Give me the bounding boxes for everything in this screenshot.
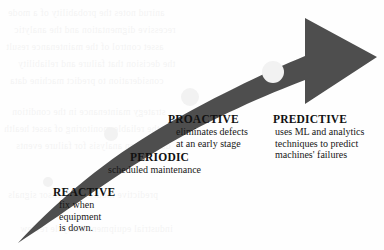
stage-periodic-title: PERIODIC bbox=[108, 151, 201, 164]
stage-reactive-desc-line: is down. bbox=[53, 222, 115, 234]
figure-canvas: anirud notes the probability of a mode r… bbox=[0, 0, 384, 250]
stage-proactive-title: PROACTIVE bbox=[168, 113, 248, 126]
stage-predictive-desc-line: uses ML and analytics bbox=[273, 126, 364, 138]
stage-predictive-desc-line: machines' failures bbox=[273, 149, 364, 161]
stage-reactive-desc-line: equipment bbox=[53, 211, 115, 223]
stage-predictive: PREDICTIVE uses ML and analytics techniq… bbox=[273, 113, 364, 161]
stage-marker-proactive bbox=[181, 88, 199, 106]
stage-reactive-desc-line: fix when bbox=[53, 199, 115, 211]
stage-proactive-desc-line: eliminates defects bbox=[168, 126, 248, 138]
stage-marker-periodic bbox=[104, 127, 118, 141]
stage-reactive-title: REACTIVE bbox=[53, 186, 115, 199]
stage-proactive-desc-line: at an early stage bbox=[168, 138, 248, 150]
stage-periodic: PERIODIC scheduled maintenance bbox=[108, 151, 201, 176]
stage-marker-reactive bbox=[43, 177, 53, 187]
stage-proactive: PROACTIVE eliminates defects at an early… bbox=[168, 113, 248, 149]
stage-predictive-desc-line: techniques to predict bbox=[273, 138, 364, 150]
stage-periodic-desc-line: scheduled maintenance bbox=[108, 164, 201, 176]
stage-reactive: REACTIVE fix when equipment is down. bbox=[53, 186, 115, 234]
stage-predictive-title: PREDICTIVE bbox=[273, 113, 364, 126]
stage-marker-predictive bbox=[262, 61, 284, 83]
